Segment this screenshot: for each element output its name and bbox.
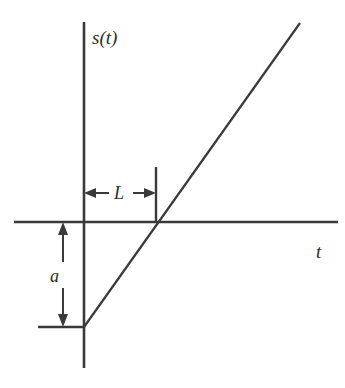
offset-dimension-group <box>58 222 68 327</box>
figure-canvas: s(t) t L a <box>0 0 345 388</box>
ramp-signal-line <box>84 23 300 327</box>
delay-arrow-right-head-icon <box>144 188 156 198</box>
y-axis-label: s(t) <box>92 27 117 49</box>
x-axis-label: t <box>316 241 322 262</box>
delay-dimension-label: L <box>113 183 124 203</box>
signal-ramp-figure: s(t) t L a <box>0 0 345 388</box>
offset-arrow-down-head-icon <box>58 314 68 327</box>
offset-arrow-up-head-icon <box>58 222 68 235</box>
offset-dimension-label: a <box>50 266 59 286</box>
delay-arrow-left-head-icon <box>84 188 96 198</box>
